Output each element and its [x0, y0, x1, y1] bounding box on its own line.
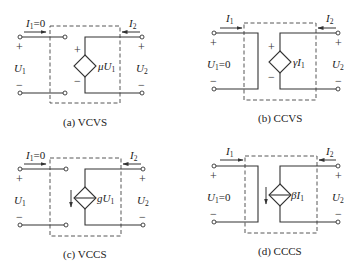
output-current-label: I2 [128, 17, 137, 31]
output-bottom-wire [280, 73, 338, 89]
inner-terminal-bottom [63, 91, 67, 95]
output-top-wire [85, 37, 142, 55]
output-top-wire [280, 166, 338, 184]
output-bottom-wire [85, 209, 143, 225]
output-voltage-label: U2 [332, 58, 344, 72]
output-voltage-label: U2 [137, 194, 149, 208]
input-minus: − [210, 207, 217, 221]
output-terminal-top [336, 31, 340, 35]
input-minus: − [210, 74, 217, 88]
output-minus: − [139, 210, 146, 224]
input-current-label: I1 [225, 145, 234, 159]
output-current-label: I2 [325, 145, 334, 159]
input-terminal-top [18, 35, 22, 39]
input-current-label: I1=0 [25, 17, 46, 31]
panel-vcvs: + − μU1 I1=0 I2 + U1 − + U2 − (a) VCVS [14, 17, 148, 129]
input-plus: + [210, 169, 217, 183]
input-terminal-top [212, 164, 216, 168]
output-top-wire [280, 33, 338, 51]
input-voltage-label: U1=0 [207, 58, 231, 72]
caption-c: (c) VCCS [63, 248, 107, 261]
input-plus: + [210, 36, 217, 50]
source-label: γI1 [293, 56, 305, 70]
input-voltage-label: U1=0 [207, 191, 231, 205]
output-bottom-wire [280, 206, 338, 222]
caption-a: (a) VCVS [63, 116, 107, 129]
input-current-label: I1=0 [25, 149, 46, 163]
input-minus: − [16, 78, 23, 92]
source-label: gU1 [97, 192, 114, 206]
output-plus: + [138, 40, 145, 54]
output-voltage-label: U2 [136, 62, 148, 76]
output-current-label: I2 [325, 12, 334, 26]
source-label: βI1 [290, 189, 304, 203]
output-minus: − [138, 78, 145, 92]
output-top-wire [85, 169, 143, 187]
source-plus: + [74, 43, 81, 57]
inner-terminal-top [63, 35, 67, 39]
panel-ccvs: + − γI1 I1 I2 + U1=0 − + U2 − (b) CCVS [207, 12, 344, 125]
source-plus: + [268, 40, 275, 54]
input-terminal-top [212, 31, 216, 35]
source-minus: − [268, 70, 275, 84]
input-terminal-top [18, 167, 22, 171]
output-current-label: I2 [129, 149, 138, 163]
input-current-label: I1 [225, 12, 234, 26]
source-minus: − [74, 74, 81, 88]
output-terminal-top [141, 167, 145, 171]
output-terminal-top [336, 164, 340, 168]
output-plus: + [335, 169, 342, 183]
input-minus: − [16, 210, 23, 224]
output-bottom-wire [85, 77, 142, 93]
inner-terminal-bottom [64, 223, 68, 227]
caption-d: (d) CCCS [258, 245, 302, 258]
controlled-sources-figure: + − μU1 I1=0 I2 + U1 − + U2 − (a) VCVS +… [0, 0, 360, 272]
input-plus: + [16, 40, 23, 54]
output-minus: − [335, 74, 342, 88]
input-plus: + [16, 172, 23, 186]
panel-cccs: βI1 I1 I2 + U1=0 − + U2 − (d) CCCS [207, 145, 344, 258]
panel-vccs: gU1 I1=0 I2 + U1 − + U2 − (c) VCCS [14, 149, 149, 261]
output-plus: + [335, 36, 342, 50]
source-label: μU1 [97, 60, 115, 74]
inner-terminal-top [64, 167, 68, 171]
output-minus: − [335, 207, 342, 221]
input-voltage-label: U1 [14, 194, 26, 208]
input-voltage-label: U1 [14, 62, 26, 76]
caption-b: (b) CCVS [258, 112, 302, 125]
output-terminal-top [140, 35, 144, 39]
output-plus: + [139, 172, 146, 186]
output-voltage-label: U2 [332, 191, 344, 205]
